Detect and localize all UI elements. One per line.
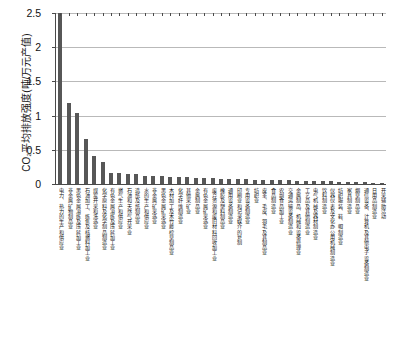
y-tick-label: 0.5 <box>1 145 41 156</box>
bar <box>143 176 147 184</box>
x-tick-mark <box>213 13 214 16</box>
bar <box>202 178 206 184</box>
bar <box>151 176 155 184</box>
x-tick-mark <box>187 13 188 16</box>
x-tick-mark <box>196 13 197 16</box>
bar <box>84 139 88 184</box>
bar <box>211 178 215 184</box>
bar <box>304 181 308 184</box>
bar <box>295 181 299 184</box>
bar <box>236 179 240 184</box>
bar-series <box>56 13 386 184</box>
x-tick-mark <box>136 13 137 16</box>
bar <box>92 156 96 184</box>
x-tick-mark <box>170 13 171 16</box>
bar <box>219 179 223 184</box>
y-tick-mark <box>52 184 56 185</box>
x-tick-mark <box>356 13 357 16</box>
chart-page: CO₂平均排放强度(吨/万元产值) 00.511.522.5 电力、热力的生产和… <box>0 0 397 340</box>
bar <box>321 181 325 184</box>
x-tick-mark <box>339 13 340 16</box>
x-tick-mark <box>77 13 78 16</box>
x-tick-mark <box>331 13 332 16</box>
x-tick-mark <box>179 13 180 16</box>
x-tick-mark <box>69 13 70 16</box>
x-tick-mark <box>297 13 298 16</box>
bar <box>134 174 138 184</box>
x-tick-mark <box>128 13 129 16</box>
x-tick-mark <box>263 13 264 16</box>
bar <box>287 180 291 184</box>
bar <box>58 13 62 184</box>
x-tick-mark <box>103 13 104 16</box>
x-tick-mark <box>246 13 247 16</box>
bar <box>329 181 333 184</box>
x-tick-mark <box>204 13 205 16</box>
bar <box>312 181 316 184</box>
bar <box>337 182 341 184</box>
x-tick-mark <box>119 13 120 16</box>
y-tick-label: 1.5 <box>1 76 41 87</box>
bar <box>278 180 282 184</box>
x-tick-mark <box>153 13 154 16</box>
x-tick-mark <box>314 13 315 16</box>
bar <box>109 173 113 184</box>
x-tick-mark <box>382 13 383 16</box>
x-tick-mark <box>221 13 222 16</box>
bar <box>126 174 130 184</box>
plot-area: 00.511.522.5 <box>55 13 386 185</box>
y-tick-label: 1 <box>1 111 41 122</box>
x-tick-mark <box>229 13 230 16</box>
x-tick-mark <box>111 13 112 16</box>
bar <box>101 162 105 184</box>
bar <box>227 179 231 184</box>
x-tick-mark <box>86 13 87 16</box>
x-tick-mark <box>145 13 146 16</box>
bar <box>244 179 248 184</box>
y-tick-label: 2.5 <box>1 8 41 19</box>
bar <box>363 182 367 184</box>
x-tick-mark <box>373 13 374 16</box>
x-tick-mark <box>365 13 366 16</box>
x-tick-mark <box>280 13 281 16</box>
x-tick-mark <box>94 13 95 16</box>
bar <box>346 182 350 184</box>
bar <box>380 183 384 184</box>
x-tick-mark <box>272 13 273 16</box>
x-axis-labels: 电力、热力的生产和供应业非金属矿物制品业黑色金属冶炼及压延加工业石油加工、炼焦及… <box>55 188 385 338</box>
bar <box>117 173 121 184</box>
x-tick-mark <box>323 13 324 16</box>
y-tick-label: 2 <box>1 42 41 53</box>
bar <box>168 177 172 184</box>
y-tick-label: 0 <box>1 179 41 190</box>
x-tick-mark <box>238 13 239 16</box>
x-tick-mark <box>60 13 61 16</box>
bar <box>185 177 189 184</box>
x-tick-label: 开采辅助活动 <box>376 188 385 219</box>
bar <box>371 183 375 184</box>
bar <box>354 182 358 184</box>
bar <box>177 177 181 184</box>
bar <box>261 180 265 184</box>
y-axis-title: CO₂平均排放强度(吨/万元产值) <box>18 8 33 198</box>
bar <box>270 180 274 184</box>
x-tick-mark <box>162 13 163 16</box>
x-tick-mark <box>289 13 290 16</box>
x-tick-mark <box>255 13 256 16</box>
bar <box>67 103 71 184</box>
bar <box>253 180 257 184</box>
x-tick-mark <box>306 13 307 16</box>
bar <box>160 176 164 184</box>
bar <box>194 178 198 184</box>
bar <box>75 113 79 184</box>
x-tick-mark <box>348 13 349 16</box>
